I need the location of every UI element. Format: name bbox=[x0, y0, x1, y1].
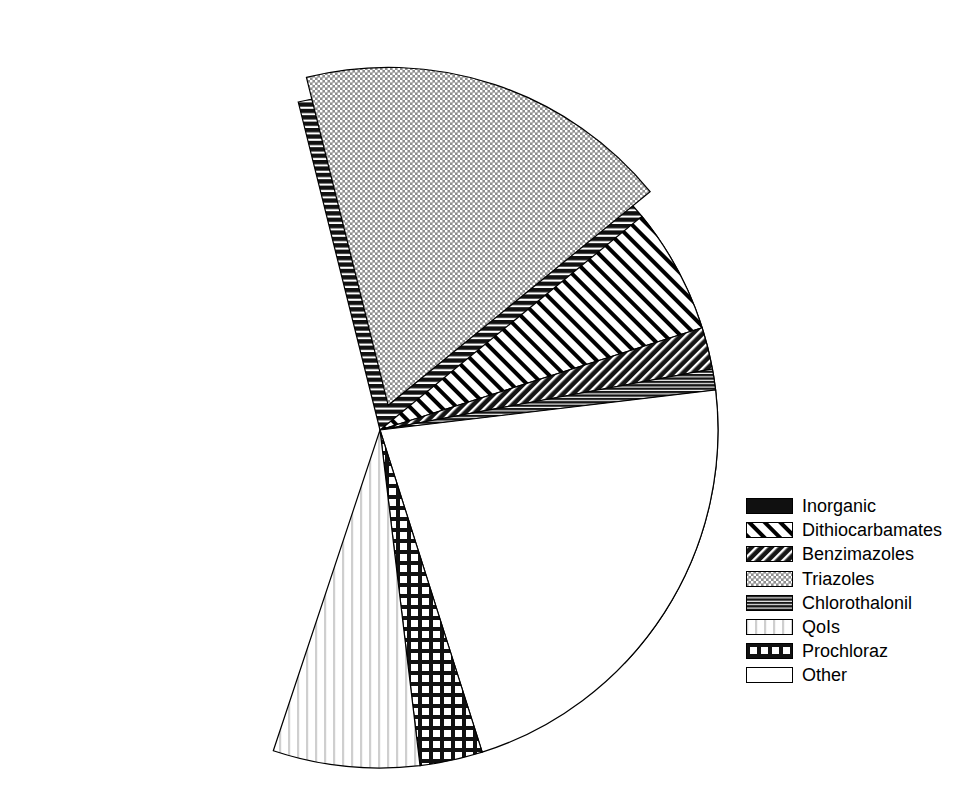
legend-item-qols[interactable]: QoIs bbox=[746, 615, 976, 639]
legend-swatch-qols bbox=[746, 619, 793, 635]
legend-label-benzimazoles: Benzimazoles bbox=[802, 545, 914, 563]
legend-label-chlorothalonil: Chlorothalonil bbox=[802, 594, 912, 612]
legend-label-qols: QoIs bbox=[802, 618, 840, 636]
legend-label-dithiocarbamates: Dithiocarbamates bbox=[802, 521, 942, 539]
legend-swatch-benzimazoles bbox=[746, 546, 793, 562]
pie-chart-figure: Inorganic Dithiocarbamates Benzimazoles … bbox=[0, 0, 980, 797]
legend-item-prochloraz[interactable]: Prochloraz bbox=[746, 639, 976, 663]
legend-item-benzimazoles[interactable]: Benzimazoles bbox=[746, 542, 976, 566]
legend-swatch-prochloraz bbox=[746, 643, 793, 659]
legend-item-dithiocarbamates[interactable]: Dithiocarbamates bbox=[746, 518, 976, 542]
legend-label-prochloraz: Prochloraz bbox=[802, 642, 888, 660]
legend-item-inorganic[interactable]: Inorganic bbox=[746, 494, 976, 518]
legend-item-chlorothalonil[interactable]: Chlorothalonil bbox=[746, 591, 976, 615]
legend-swatch-triazoles bbox=[746, 571, 793, 587]
legend-label-other: Other bbox=[802, 666, 847, 684]
legend-swatch-dithiocarbamates bbox=[746, 522, 793, 538]
chart-legend: Inorganic Dithiocarbamates Benzimazoles … bbox=[746, 494, 976, 688]
legend-label-triazoles: Triazoles bbox=[802, 570, 874, 588]
legend-swatch-other bbox=[746, 667, 793, 683]
legend-label-inorganic: Inorganic bbox=[802, 497, 876, 515]
pie-slices-group bbox=[273, 67, 718, 768]
legend-swatch-chlorothalonil bbox=[746, 595, 793, 611]
legend-swatch-inorganic bbox=[746, 498, 793, 514]
legend-item-triazoles[interactable]: Triazoles bbox=[746, 567, 976, 591]
legend-item-other[interactable]: Other bbox=[746, 663, 976, 687]
